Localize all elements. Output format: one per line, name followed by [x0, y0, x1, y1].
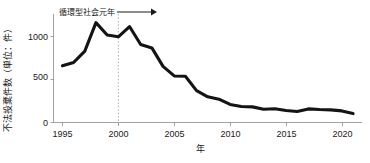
- x-tick-label: 1995: [52, 129, 72, 139]
- x-tick-label: 2005: [164, 129, 184, 139]
- event-annotation-label: 循環型社会元年: [59, 7, 115, 17]
- y-tick-labels: 1000 500 0: [28, 32, 48, 128]
- chart-container: 不法投棄件数（単位：件） 1000 500 0: [0, 0, 370, 163]
- y-axis-title: 不法投棄件数（単位：件）: [2, 24, 13, 132]
- illegal-dumping-line-chart: 不法投棄件数（単位：件） 1000 500 0: [0, 0, 370, 163]
- axis-lines: [54, 14, 363, 123]
- x-tick-label: 2010: [220, 129, 240, 139]
- x-tick-labels: 1995 2000 2005 2010 2015 2020: [52, 129, 352, 139]
- y-tick-label: 0: [43, 118, 48, 128]
- x-axis-title: 年: [196, 143, 205, 154]
- x-tick-label: 2015: [276, 129, 296, 139]
- event-annotation: 循環型社会元年: [59, 7, 157, 17]
- y-axis-title-text: 不法投棄件数（単位：件）: [2, 24, 13, 132]
- event-annotation-arrowhead: [151, 9, 157, 16]
- x-tick-label: 2020: [332, 129, 352, 139]
- y-tick-label: 500: [33, 72, 48, 82]
- x-tick-marks: [63, 123, 343, 127]
- y-tick-label: 1000: [28, 32, 48, 42]
- y-tick-marks: [51, 37, 54, 123]
- x-tick-label: 2000: [108, 129, 128, 139]
- data-series-line: [62, 23, 353, 114]
